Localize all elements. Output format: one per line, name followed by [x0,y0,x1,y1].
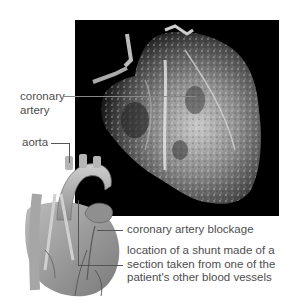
aorta-leader-vertical [69,143,70,163]
shunt-label-line2: section taken from one of the [127,258,275,272]
coronary-artery-label-line1: coronary [20,90,65,104]
shunt-label-line3: patient's other blood vessels [127,271,275,285]
aorta-leader-horizontal [51,143,70,144]
shunt-location-label: location of a shunt made of a section ta… [127,244,275,285]
coronary-artery-label: coronary artery [20,90,65,117]
coronary-artery-leader-line [63,96,196,97]
shunt-label-line1: location of a shunt made of a [127,244,275,258]
blockage-leader-line [97,230,123,231]
aorta-label: aorta [22,136,48,150]
coronary-artery-blockage-label: coronary artery blockage [127,223,254,237]
shunt-leader-horizontal [78,265,123,266]
shunt-leader-vertical [78,200,79,265]
coronary-artery-label-line2: artery [20,104,65,118]
heart-illustration [15,150,125,300]
heart-illustration-image [15,150,125,300]
